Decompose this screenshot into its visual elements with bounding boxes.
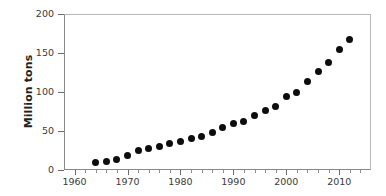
- y-axis-tick: [58, 170, 64, 171]
- x-axis-minor-tick: [255, 170, 256, 173]
- x-axis-minor-tick: [106, 170, 107, 173]
- x-axis-minor-tick: [138, 170, 139, 173]
- data-point: [325, 59, 332, 66]
- plot-area: [64, 14, 371, 170]
- x-axis-tick-label: 1980: [160, 177, 200, 187]
- x-axis-minor-tick: [191, 170, 192, 173]
- y-axis-tick-label-text: 0: [18, 165, 54, 175]
- y-axis-tick-label: 100: [14, 87, 54, 97]
- x-axis-tick: [286, 170, 287, 175]
- x-axis-tick-label: 2000: [266, 177, 306, 187]
- y-axis-tick-label: 200: [14, 9, 54, 19]
- x-axis-minor-tick: [223, 170, 224, 173]
- data-point: [272, 103, 279, 110]
- x-axis-minor-tick: [318, 170, 319, 173]
- x-axis-tick: [75, 170, 76, 175]
- x-axis-tick-label: 1960: [55, 177, 95, 187]
- y-axis-tick-label: 0: [14, 165, 54, 175]
- data-point: [283, 93, 290, 100]
- x-axis-minor-tick: [307, 170, 308, 173]
- x-axis-minor-tick: [265, 170, 266, 173]
- y-axis-tick-label-text: 100: [18, 87, 54, 97]
- x-axis-minor-tick: [329, 170, 330, 173]
- data-point: [177, 138, 184, 145]
- data-point: [103, 158, 110, 165]
- data-point: [315, 68, 322, 75]
- y-axis-tick-label: 50: [14, 126, 54, 136]
- x-axis-tick: [233, 170, 234, 175]
- data-point: [188, 135, 195, 142]
- y-axis-tick-label-text: 200: [18, 9, 54, 19]
- data-point: [198, 133, 205, 140]
- data-point: [209, 129, 216, 136]
- x-axis-minor-tick: [360, 170, 361, 173]
- x-axis-minor-tick: [350, 170, 351, 173]
- data-point: [135, 147, 142, 154]
- x-axis-minor-tick: [170, 170, 171, 173]
- x-axis-minor-tick: [244, 170, 245, 173]
- y-axis-tick-label-text: 50: [18, 126, 54, 136]
- y-axis-tick: [58, 53, 64, 54]
- x-axis-minor-tick: [212, 170, 213, 173]
- y-axis-tick-label: 150: [14, 48, 54, 58]
- x-axis-minor-tick: [202, 170, 203, 173]
- x-axis-minor-tick: [276, 170, 277, 173]
- x-axis-minor-tick: [297, 170, 298, 173]
- x-axis-minor-tick: [159, 170, 160, 173]
- x-axis-minor-tick: [96, 170, 97, 173]
- x-axis-tick: [339, 170, 340, 175]
- data-point: [262, 107, 269, 114]
- y-axis-tick: [58, 131, 64, 132]
- x-axis-tick-label: 1970: [108, 177, 148, 187]
- data-point: [293, 89, 300, 96]
- x-axis-minor-tick: [149, 170, 150, 173]
- x-axis-minor-tick: [117, 170, 118, 173]
- data-point: [92, 159, 99, 166]
- x-axis-minor-tick: [85, 170, 86, 173]
- scatter-chart: Million tons 050100150200 19601970198019…: [0, 0, 386, 196]
- x-axis-tick: [128, 170, 129, 175]
- data-point: [156, 143, 163, 150]
- x-axis-tick: [180, 170, 181, 175]
- y-axis-tick-label-text: 150: [18, 48, 54, 58]
- data-point: [251, 112, 258, 119]
- x-axis-tick-label: 2010: [319, 177, 359, 187]
- y-axis-tick: [58, 14, 64, 15]
- x-axis-tick-label: 1990: [213, 177, 253, 187]
- y-axis-tick: [58, 92, 64, 93]
